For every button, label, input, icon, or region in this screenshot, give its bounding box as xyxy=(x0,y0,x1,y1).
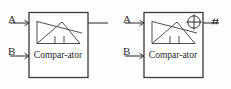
input-port-a-label: A xyxy=(8,14,16,25)
move-cursor-icon[interactable] xyxy=(211,19,219,25)
left-panel-vector-layer xyxy=(0,0,116,89)
comparator-block-diagram-right: A B Compar-ator xyxy=(115,0,231,89)
input-port-a-label: A xyxy=(123,14,131,25)
comparator-block-caption: Compar-ator xyxy=(115,50,231,60)
right-panel-vector-layer xyxy=(115,0,231,89)
comparator-block-outline[interactable] xyxy=(29,13,88,78)
figure-canvas: A B Compar-ator xyxy=(0,0,231,89)
comparator-block-diagram-left: A B Compar-ator xyxy=(0,0,116,89)
comparator-block-caption: Compar-ator xyxy=(0,50,116,60)
